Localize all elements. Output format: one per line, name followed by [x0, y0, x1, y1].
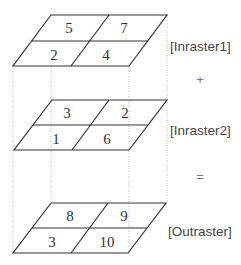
equals-operator: =	[196, 169, 204, 184]
cell-top-left: 8	[66, 208, 74, 224]
plus-operator: +	[196, 72, 204, 87]
cell-top-left: 5	[65, 20, 73, 36]
cell-top-right: 2	[121, 105, 129, 121]
layer-label-inraster1: [Inraster1]	[170, 39, 231, 54]
cell-top-right: 7	[120, 20, 128, 36]
vertical-guides	[13, 15, 167, 253]
layer-outraster: 8 9 3 10	[13, 203, 166, 253]
layer-label-outraster: [Outraster]	[168, 224, 232, 239]
layer-inraster1: 5 7 2 4	[13, 15, 167, 66]
cell-top-right: 9	[120, 208, 128, 224]
cell-bottom-left: 3	[48, 234, 56, 250]
layer-inraster2: 3 2 1 6	[14, 100, 167, 150]
cell-bottom-right: 4	[102, 47, 110, 63]
cell-bottom-right: 6	[103, 131, 111, 147]
cell-bottom-left: 1	[52, 131, 60, 147]
raster-addition-diagram: 5 7 2 4 [Inraster1] + 3 2 1 6 [Inraster2…	[0, 0, 241, 265]
cell-bottom-left: 2	[50, 47, 58, 63]
layer-label-inraster2: [Inraster2]	[170, 123, 231, 138]
cell-top-left: 3	[63, 105, 71, 121]
cell-bottom-right: 10	[100, 234, 115, 250]
